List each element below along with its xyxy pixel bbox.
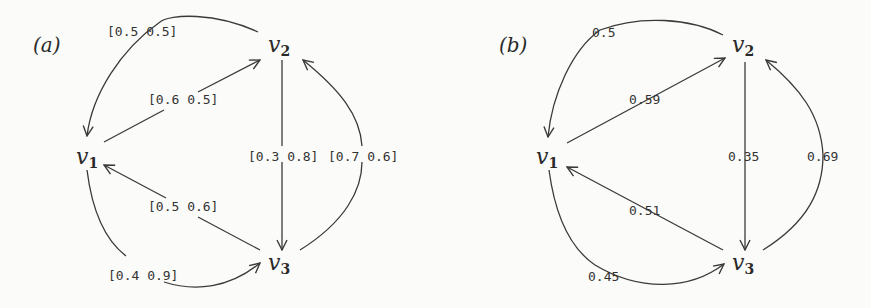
svg-text:v3: v3 (268, 250, 290, 277)
edge-v1-v2: [0.6 0.5] (104, 60, 260, 142)
node-v3: v3 (732, 250, 754, 277)
node-v1: v1 (76, 144, 98, 171)
edge-label-v3-v2: [0.7 0.6] (328, 149, 398, 164)
svg-text:v1: v1 (536, 144, 558, 171)
edge-v2-v3: 0.35 (728, 62, 759, 250)
edge-label-v1-v2: 0.59 (629, 92, 660, 107)
node-v3: v3 (268, 250, 290, 277)
edge-label-v2-v3: 0.35 (728, 149, 759, 164)
edge-v2-v1: [0.5 0.5] (87, 16, 258, 136)
edge-label-v1-v3: [0.4 0.9] (108, 268, 178, 283)
svg-text:v2: v2 (732, 32, 754, 59)
node-v2: v2 (732, 32, 754, 59)
edge-label-v3-v1: 0.51 (629, 203, 660, 218)
svg-text:v3: v3 (732, 250, 754, 277)
node-v2: v2 (268, 32, 290, 59)
edge-v3-v1: 0.51 (567, 167, 723, 250)
edge-v3-v1: [0.5 0.6] (104, 165, 260, 250)
diagram-canvas: (a) v1 v2 v3 [0.5 0.5] [0.6 0.5] [0.3 0.… (0, 0, 871, 308)
edge-v3-v2: 0.69 (763, 60, 838, 250)
edge-label-v2-v1: 0.5 (592, 25, 615, 40)
panel-b: (b) v1 v2 v3 0.5 0.59 0.35 0.69 (499, 20, 838, 284)
svg-text:v2: v2 (268, 32, 290, 59)
svg-text:v1: v1 (76, 144, 98, 171)
edge-label-v1-v3: 0.45 (588, 269, 619, 284)
edge-v2-v1: 0.5 (548, 20, 723, 137)
panel-b-label: (b) (499, 33, 527, 57)
node-v1: v1 (536, 144, 558, 171)
edge-label-v2-v3: [0.3 0.8] (248, 149, 318, 164)
panel-a: (a) v1 v2 v3 [0.5 0.5] [0.6 0.5] [0.3 0.… (33, 16, 398, 287)
edge-label-v3-v1: [0.5 0.6] (148, 199, 218, 214)
edge-v1-v3: [0.4 0.9] (87, 170, 260, 287)
edge-v2-v3: [0.3 0.8] (248, 60, 318, 250)
edge-v1-v2: 0.59 (567, 58, 725, 143)
edge-label-v1-v2: [0.6 0.5] (148, 92, 218, 107)
edge-label-v3-v2: 0.69 (807, 149, 838, 164)
panel-a-label: (a) (33, 33, 61, 57)
edge-label-v2-v1: [0.5 0.5] (107, 24, 177, 39)
edge-v1-v3: 0.45 (549, 170, 724, 284)
